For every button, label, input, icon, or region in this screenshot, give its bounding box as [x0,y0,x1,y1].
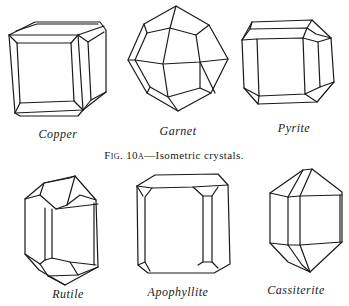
crystal-label-rutile: Rutile [52,287,84,302]
apophyllite-crystal-drawing [137,174,230,273]
crystal-label-apophyllite: Apophyllite [148,285,209,300]
pyrite-crystal-drawing [242,20,334,104]
figure-caption: Fig. 10a—Isometric crystals. [104,149,244,161]
garnet-crystal-drawing [128,6,228,111]
figure-number: Fig. 10a [104,149,144,161]
crystal-label-pyrite: Pyrite [278,121,310,136]
rutile-crystal-drawing [25,176,98,285]
crystal-label-cassiterite: Cassiterite [267,283,325,298]
copper-crystal-drawing [9,22,106,116]
figure-caption-text: —Isometric crystals. [144,149,244,161]
cassiterite-crystal-drawing [270,169,342,272]
crystal-label-garnet: Garnet [160,124,197,139]
crystal-label-copper: Copper [39,127,78,142]
